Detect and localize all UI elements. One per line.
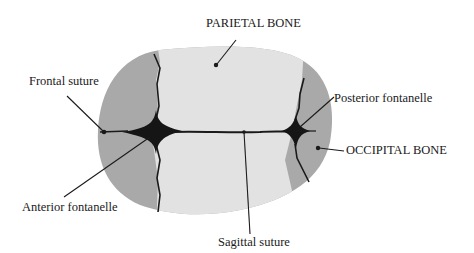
skull-diagram: PARIETAL BONE Frontal suture Posterior f…: [0, 0, 474, 253]
sagittal-suture-line: [170, 131, 290, 132]
label-frontal-suture: Frontal suture: [29, 75, 99, 88]
label-posterior-fontanelle: Posterior fontanelle: [334, 92, 432, 105]
label-parietal-bone: PARIETAL BONE: [206, 17, 301, 30]
label-anterior-fontanelle: Anterior fontanelle: [22, 201, 117, 214]
label-sagittal-suture: Sagittal suture: [218, 236, 290, 249]
leader-frontal-suture: [67, 96, 104, 132]
label-occipital-bone: OCCIPITAL BONE: [346, 144, 447, 157]
skull-illustration: [0, 0, 474, 253]
